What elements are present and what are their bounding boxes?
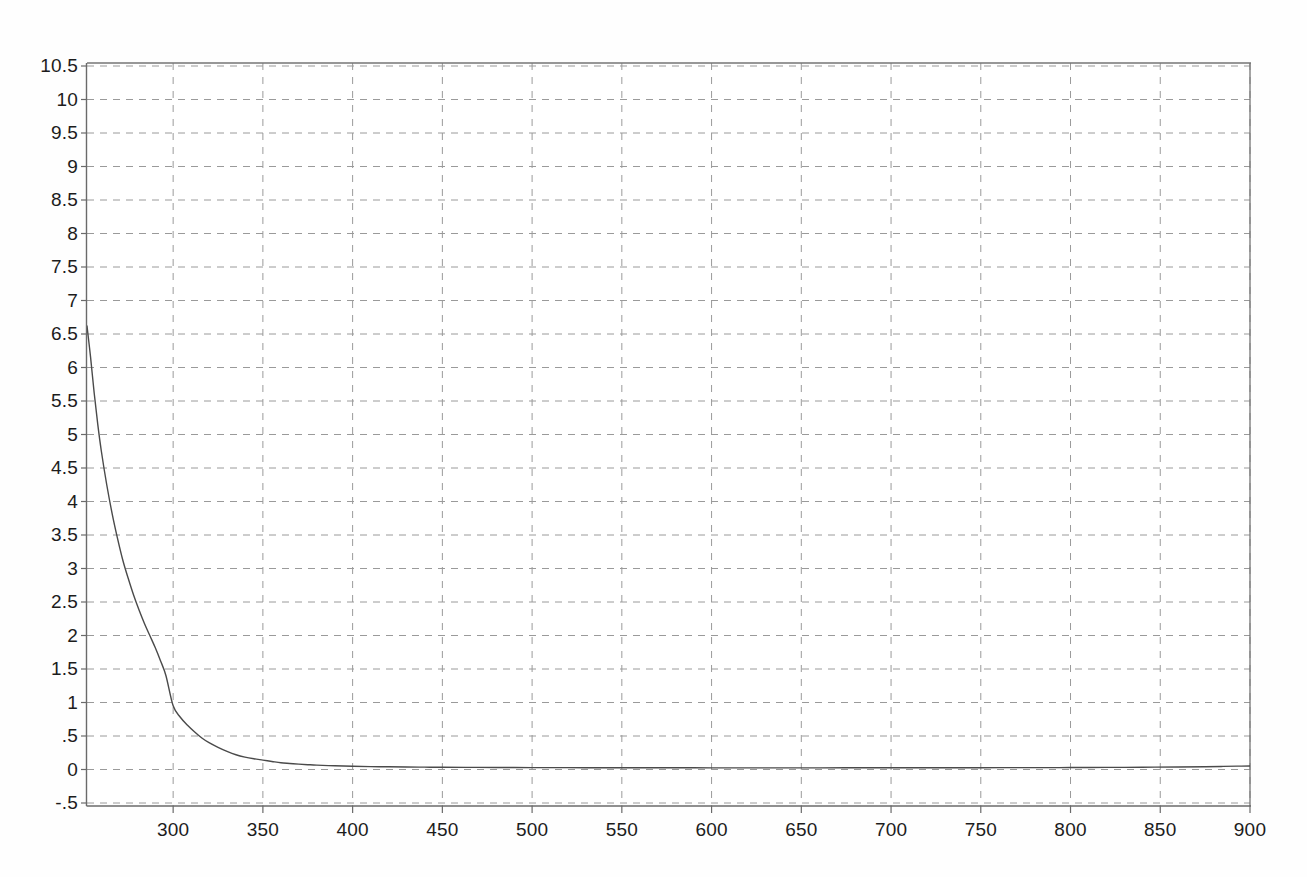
x-axis-tick-label: 500 — [492, 820, 572, 839]
x-axis-tick-label: 550 — [582, 820, 662, 839]
y-axis-tick-label: 7 — [67, 291, 78, 310]
y-axis-tick-label: 5 — [67, 425, 78, 444]
y-axis-tick-label: 4 — [67, 492, 78, 511]
x-axis-tick-label: 400 — [313, 820, 393, 839]
y-axis-tick-label: 3 — [67, 559, 78, 578]
y-axis-tick-label: 5.5 — [51, 391, 78, 410]
y-axis-tick-label: 6.5 — [51, 324, 78, 343]
y-axis-tick-label: -.5 — [55, 793, 78, 812]
x-axis-tick-label: 300 — [133, 820, 213, 839]
y-axis-tick-label: 10 — [56, 90, 78, 109]
x-axis-tick-label: 600 — [672, 820, 752, 839]
x-axis-tick-label: 450 — [402, 820, 482, 839]
y-axis-tick-label: 1 — [67, 693, 78, 712]
x-axis-tick-label: 350 — [223, 820, 303, 839]
y-axis-tick-label: 9 — [67, 157, 78, 176]
y-axis-tick-label: 1.5 — [51, 659, 78, 678]
x-axis-tick-label: 700 — [851, 820, 931, 839]
y-axis-tick-label: 8 — [67, 224, 78, 243]
y-axis-tick-label: 2.5 — [51, 592, 78, 611]
y-axis-tick-label: 0 — [67, 760, 78, 779]
y-axis-tick-label: 2 — [67, 626, 78, 645]
x-axis-tick-label: 850 — [1120, 820, 1200, 839]
x-axis-tick-label: 750 — [941, 820, 1021, 839]
x-axis-tick-label: 900 — [1210, 820, 1290, 839]
y-axis-tick-label: 7.5 — [51, 257, 78, 276]
y-axis-tick-label: .5 — [62, 726, 78, 745]
y-axis-tick-label: 10.5 — [40, 56, 78, 75]
x-axis-tick-label: 650 — [761, 820, 841, 839]
x-axis-tick-label: 800 — [1031, 820, 1111, 839]
chart-container: -.50.511.522.533.544.555.566.577.588.599… — [0, 0, 1307, 877]
y-axis-tick-label: 6 — [67, 358, 78, 377]
y-axis-tick-label: 8.5 — [51, 190, 78, 209]
y-axis-tick-label: 4.5 — [51, 458, 78, 477]
x-axis-tick-marks — [173, 806, 1250, 813]
y-axis-tick-label: 3.5 — [51, 525, 78, 544]
plot-area — [0, 0, 1307, 877]
y-axis-tick-label: 9.5 — [51, 123, 78, 142]
